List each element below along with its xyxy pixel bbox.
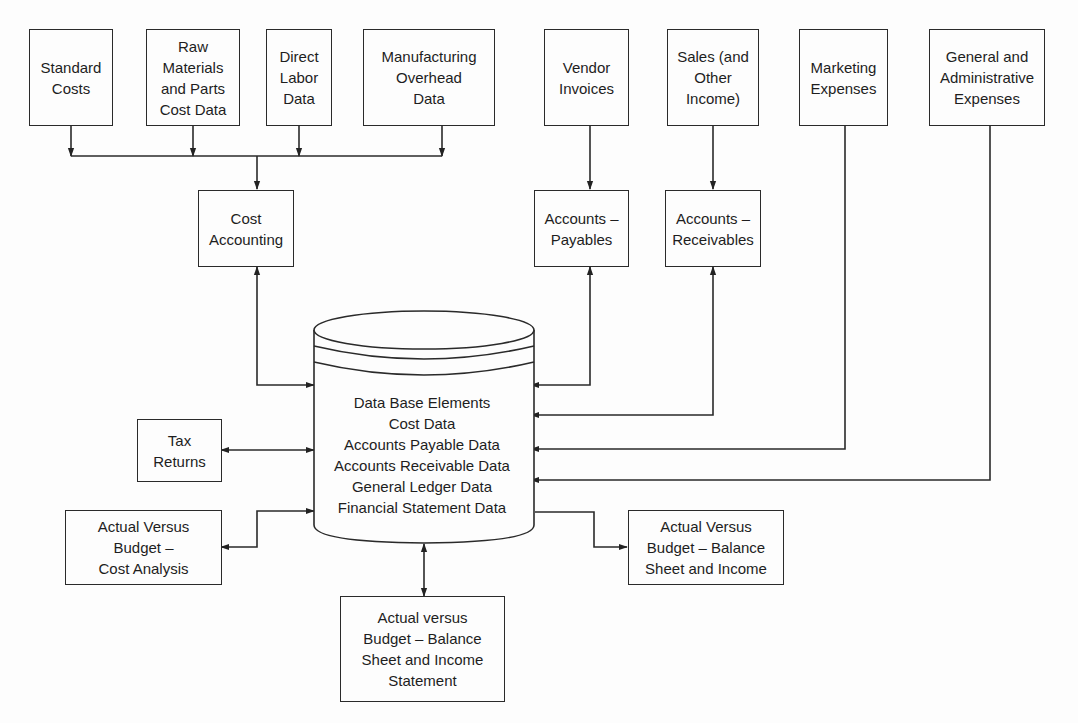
label: Actual Versus xyxy=(98,516,190,537)
label: General and xyxy=(946,46,1029,67)
label: Accounting xyxy=(209,229,283,250)
label: Other xyxy=(694,67,732,88)
label: Returns xyxy=(153,451,206,472)
label: Income) xyxy=(686,88,740,109)
box-sales: Sales (and Other Income) xyxy=(667,29,759,126)
box-marketing-expenses: Marketing Expenses xyxy=(799,29,888,126)
box-accounts-receivables: Accounts – Receivables xyxy=(665,190,761,267)
label: Accounts – xyxy=(676,208,750,229)
label: Actual Versus xyxy=(660,516,752,537)
label: Cost Analysis xyxy=(98,558,188,579)
label: Vendor xyxy=(563,57,611,78)
label: Cost Data xyxy=(160,99,227,120)
arrow-general-admin-db xyxy=(531,125,990,480)
label: Accounts Payable Data xyxy=(312,434,532,455)
box-vendor-invoices: Vendor Invoices xyxy=(544,29,629,126)
label: Accounts Receivable Data xyxy=(312,455,532,476)
label: Manufacturing xyxy=(381,46,476,67)
label: Direct xyxy=(279,46,318,67)
label: Tax xyxy=(168,430,191,451)
label: Invoices xyxy=(559,78,614,99)
label: Expenses xyxy=(954,88,1020,109)
box-standard-costs: Standard Costs xyxy=(29,29,113,126)
label: Data xyxy=(283,88,315,109)
label: Expenses xyxy=(811,78,877,99)
label: Standard xyxy=(41,57,102,78)
label: Accounts – xyxy=(544,208,618,229)
arrow-receivables-db xyxy=(531,267,713,415)
box-avb-balance-sheet-income-statement: Actual versus Budget – Balance Sheet and… xyxy=(340,596,505,702)
label: Data Base Elements xyxy=(312,392,532,413)
box-cost-accounting: Cost Accounting xyxy=(198,190,294,267)
arrow-cost-accounting-db xyxy=(257,267,314,385)
label: Materials xyxy=(163,57,224,78)
label: Financial Statement Data xyxy=(312,497,532,518)
label: Cost xyxy=(231,208,262,229)
box-avb-cost-analysis: Actual Versus Budget – Cost Analysis xyxy=(65,510,222,585)
label: Cost Data xyxy=(312,413,532,434)
label: Sales (and xyxy=(677,46,749,67)
label: Administrative xyxy=(940,67,1034,88)
label: Data xyxy=(413,88,445,109)
label: Marketing xyxy=(811,57,877,78)
label: Statement xyxy=(388,670,456,691)
arrow-payables-db xyxy=(531,267,590,385)
label: Payables xyxy=(551,229,613,250)
label: General Ledger Data xyxy=(312,476,532,497)
label: Receivables xyxy=(672,229,754,250)
arrow-db-avb-balance xyxy=(535,512,627,547)
arrow-avb-cost-db xyxy=(221,511,314,547)
label: Sheet and Income xyxy=(645,558,767,579)
label: Labor xyxy=(280,67,318,88)
label: Actual versus xyxy=(377,607,467,628)
box-direct-labor: Direct Labor Data xyxy=(266,29,332,126)
label: Budget – Balance xyxy=(363,628,481,649)
box-raw-materials: Raw Materials and Parts Cost Data xyxy=(146,29,240,126)
box-avb-balance-sheet-income: Actual Versus Budget – Balance Sheet and… xyxy=(628,510,784,585)
label: Costs xyxy=(52,78,90,99)
label: Sheet and Income xyxy=(362,649,484,670)
label: Budget – Balance xyxy=(647,537,765,558)
label: Budget – xyxy=(113,537,173,558)
database-contents: Data Base Elements Cost Data Accounts Pa… xyxy=(312,392,532,518)
box-tax-returns: Tax Returns xyxy=(137,419,222,482)
box-accounts-payables: Accounts – Payables xyxy=(534,190,629,267)
box-manufacturing-overhead: Manufacturing Overhead Data xyxy=(363,29,495,126)
label: and Parts xyxy=(161,78,225,99)
arrow-marketing-db xyxy=(531,125,845,449)
box-general-admin-expenses: General and Administrative Expenses xyxy=(929,29,1045,126)
label: Raw xyxy=(178,36,208,57)
label: Overhead xyxy=(396,67,462,88)
